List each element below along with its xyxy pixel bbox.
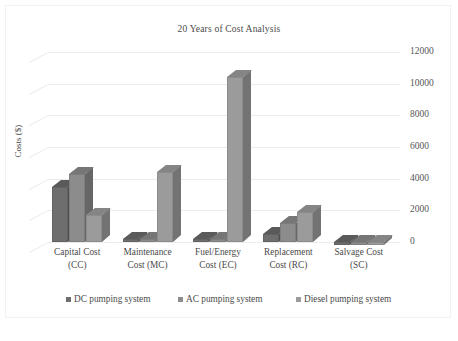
bar-front-face: [368, 242, 384, 245]
x-axis-tick-label: MaintenanceCost (MC): [112, 246, 182, 271]
x-axis-tick-label-line: Replacement: [253, 246, 323, 259]
chart-legend: DC pumping systemAC pumping systemDiesel…: [48, 294, 408, 310]
legend-item[interactable]: Diesel pumping system: [296, 294, 391, 304]
x-axis-tick-labels: Capital Cost(CC)MaintenanceCost (MC)Fuel…: [48, 246, 400, 280]
bar: [334, 242, 350, 245]
gridline-depth-edge: [29, 52, 48, 63]
bar-front-face: [334, 242, 350, 245]
y-axis-tick-label: 12000: [410, 46, 434, 56]
bar-front-face: [86, 215, 102, 242]
x-axis-tick-label-line: Capital Cost: [42, 246, 112, 259]
bar-front-face: [263, 234, 279, 242]
bar: [351, 242, 367, 245]
y-axis-title: Costs ($): [13, 111, 23, 171]
bar-front-face: [69, 174, 85, 242]
y-axis-tick-label: 8000: [410, 109, 429, 119]
x-axis-tick-label-line: Salvage Cost: [324, 246, 394, 259]
bar-front-face: [52, 187, 68, 242]
y-axis-tick-label: 2000: [410, 204, 429, 214]
chart-title: 20 Years of Cost Analysis: [6, 24, 452, 34]
legend-swatch-icon: [178, 297, 183, 302]
bar-front-face: [297, 212, 313, 242]
x-axis-tick-label-line: Fuel/Energy: [183, 246, 253, 259]
bar-front-face: [227, 77, 243, 242]
x-axis-tick-label: ReplacementCost (RC): [253, 246, 323, 271]
gridline-depth-edge: [29, 179, 48, 190]
bar-front-face: [210, 239, 226, 242]
legend-swatch-icon: [296, 297, 301, 302]
bar: [86, 215, 102, 242]
y-axis-tick-label: 0: [410, 236, 415, 246]
bar: [210, 239, 226, 242]
legend-item[interactable]: DC pumping system: [66, 294, 150, 304]
y-axis-tick-label: 10000: [410, 78, 434, 88]
bar: [140, 239, 156, 242]
bar-front-face: [157, 172, 173, 242]
legend-label: Diesel pumping system: [304, 294, 391, 304]
bar: [368, 242, 384, 245]
x-axis-tick-label-line: Cost (EC): [183, 259, 253, 272]
x-axis-tick-label-line: Cost (RC): [253, 259, 323, 272]
bar: [280, 223, 296, 242]
bar-front-face: [193, 239, 209, 242]
bar-front-face: [123, 239, 139, 242]
bar: [52, 187, 68, 242]
x-axis-tick-label: Fuel/EnergyCost (EC): [183, 246, 253, 271]
gridline-depth-edge: [29, 147, 48, 158]
x-axis-tick-label-line: Maintenance: [112, 246, 182, 259]
bar: [297, 212, 313, 242]
gridline-depth-edge: [29, 210, 48, 221]
gridline-depth-edge: [29, 115, 48, 126]
plot-area: [48, 52, 400, 242]
bar: [157, 172, 173, 242]
x-axis-tick-label-line: Cost (MC): [112, 259, 182, 272]
chart-container: 20 Years of Cost Analysis Costs ($) 1200…: [5, 5, 451, 318]
bar-front-face: [351, 242, 367, 245]
legend-label: AC pumping system: [186, 294, 262, 304]
bar-front-face: [280, 223, 296, 242]
legend-swatch-icon: [66, 297, 71, 302]
bar: [263, 234, 279, 242]
x-axis-tick-label: Salvage Cost(SC): [324, 246, 394, 271]
x-axis-tick-label-line: (SC): [324, 259, 394, 272]
bar-front-face: [140, 239, 156, 242]
legend-item[interactable]: AC pumping system: [178, 294, 262, 304]
bar-side-face: [173, 165, 181, 242]
bar: [69, 174, 85, 242]
x-axis-tick-label-line: (CC): [42, 259, 112, 272]
y-axis-tick-label: 6000: [410, 141, 429, 151]
gridline-depth-edge: [29, 84, 48, 95]
bar: [123, 239, 139, 242]
legend-label: DC pumping system: [74, 294, 150, 304]
bar: [227, 77, 243, 242]
bar-side-face: [243, 70, 251, 242]
y-axis-tick-label: 4000: [410, 173, 429, 183]
x-axis-tick-label: Capital Cost(CC): [42, 246, 112, 271]
bar: [193, 239, 209, 242]
